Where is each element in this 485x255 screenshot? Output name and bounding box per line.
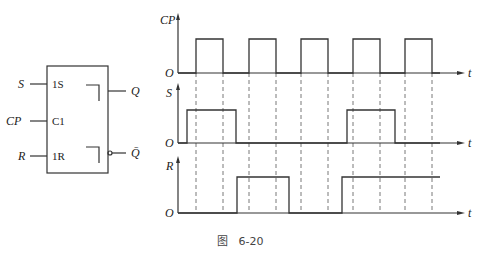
input-label-s: S xyxy=(18,77,24,91)
arrow-up-icon xyxy=(176,13,180,20)
s-origin-label: O xyxy=(165,136,174,150)
arrow-up-icon xyxy=(176,83,180,90)
timing-diagram: S CP R 1S C1 1R Q Q̄ CP O t xyxy=(0,0,485,255)
s-waveform: S O t xyxy=(165,83,472,150)
arrow-right-icon xyxy=(457,211,465,215)
rs-flipflop-symbol: S CP R 1S C1 1R Q Q̄ xyxy=(6,66,140,173)
pin-label-1s: 1S xyxy=(52,78,64,90)
input-label-cp: CP xyxy=(6,114,22,128)
cp-time-label: t xyxy=(468,66,472,80)
inversion-bubble-icon xyxy=(108,151,112,155)
figure-caption: 图 6-20 xyxy=(217,235,263,248)
arrow-up-icon xyxy=(176,156,180,163)
postponed-output-icon xyxy=(86,147,99,163)
cp-waveform: CP O t xyxy=(160,13,472,80)
r-waveform: R O t xyxy=(165,156,472,220)
arrow-right-icon xyxy=(457,141,465,145)
s-axis-label: S xyxy=(166,86,172,100)
r-origin-label: O xyxy=(165,206,174,220)
r-axis-label: R xyxy=(165,159,174,173)
input-label-r: R xyxy=(17,149,26,163)
output-label-qbar: Q̄ xyxy=(131,146,140,160)
s-time-label: t xyxy=(468,136,472,150)
cp-axis-label: CP xyxy=(160,13,176,27)
pin-label-c1: C1 xyxy=(52,115,65,127)
postponed-output-icon xyxy=(86,85,99,101)
r-time-label: t xyxy=(468,206,472,220)
pin-label-1r: 1R xyxy=(52,150,66,162)
cp-origin-label: O xyxy=(165,66,174,80)
arrow-right-icon xyxy=(457,71,465,75)
output-label-q: Q xyxy=(131,84,140,98)
